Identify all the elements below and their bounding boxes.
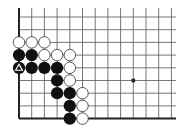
black-stone bbox=[26, 62, 38, 74]
white-stone bbox=[77, 87, 89, 99]
black-stone bbox=[51, 62, 63, 74]
black-stone bbox=[51, 87, 63, 99]
black-stone bbox=[64, 112, 76, 124]
black-stone bbox=[13, 49, 25, 61]
black-stone bbox=[51, 74, 63, 86]
white-stone bbox=[51, 49, 63, 61]
black-stone bbox=[26, 49, 38, 61]
white-stone bbox=[64, 75, 76, 87]
star-points bbox=[132, 79, 136, 83]
white-stone bbox=[77, 100, 89, 112]
go-board bbox=[0, 0, 186, 132]
star-point bbox=[132, 79, 136, 83]
white-stone bbox=[39, 49, 51, 61]
black-stone bbox=[64, 100, 76, 112]
white-stone bbox=[39, 37, 51, 49]
white-stone bbox=[64, 49, 76, 61]
white-stone bbox=[13, 37, 25, 49]
black-stone bbox=[38, 62, 50, 74]
white-stone bbox=[26, 37, 38, 49]
black-stone bbox=[64, 87, 76, 99]
white-stone bbox=[77, 113, 89, 125]
white-stone bbox=[64, 62, 76, 74]
